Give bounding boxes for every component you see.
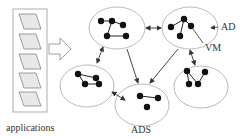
applications-panel (13, 9, 47, 112)
ad-label: AD (221, 21, 235, 32)
domain-top-left (89, 7, 145, 49)
ads-label: ADS (131, 124, 151, 135)
vm-label: VM (205, 42, 221, 53)
applications-label: applications (6, 122, 54, 133)
domain-bottom-center (115, 84, 169, 126)
domain-mid-right (174, 66, 228, 108)
hollow-arrow-icon (49, 38, 71, 60)
diagram-canvas (0, 0, 244, 139)
